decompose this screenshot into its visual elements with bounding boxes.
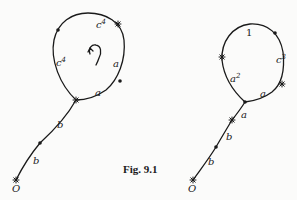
star-vertex xyxy=(219,54,225,60)
figure-9-1: c4 c4 a a b b O 1 c3 a2 a a b b O Fig. 9… xyxy=(0,0,297,200)
right-loop xyxy=(222,24,284,102)
figure-caption: Fig. 9.1 xyxy=(123,163,158,175)
label-exponent: 4 xyxy=(62,56,66,64)
label-exponent: 3 xyxy=(282,53,286,61)
vertex-dot xyxy=(214,145,218,149)
left-stem-label-upper: b xyxy=(57,120,63,130)
vertex-dot xyxy=(118,79,122,83)
right-label-left: a2 xyxy=(230,74,240,84)
star-vertex xyxy=(279,81,285,87)
vertex-dot xyxy=(273,31,277,35)
left-origin-label: O xyxy=(12,184,20,194)
right-stem-label-lower: b xyxy=(208,157,214,167)
star-vertex xyxy=(73,97,79,103)
vertex-dot xyxy=(56,28,60,32)
vertex-dot xyxy=(38,141,42,145)
curved-arrow-icon xyxy=(89,45,100,65)
label-exponent: 4 xyxy=(102,18,106,26)
left-stem-label-lower: b xyxy=(33,156,39,166)
left-label-right-upper: a xyxy=(113,59,119,69)
right-label-bottom-right: a xyxy=(260,89,266,99)
label-exponent: 2 xyxy=(236,72,240,80)
right-label-top: 1 xyxy=(246,28,252,38)
left-stem xyxy=(16,100,76,180)
right-stem-label-a: a xyxy=(241,110,247,120)
star-vertex xyxy=(115,21,121,27)
right-stem-label-upper: b xyxy=(226,132,232,142)
left-label-right-lower: a xyxy=(95,88,101,98)
vertex-dot xyxy=(243,100,247,104)
right-label-right: c3 xyxy=(276,55,286,65)
star-vertex xyxy=(229,117,235,123)
left-label-left: c4 xyxy=(56,58,66,68)
right-origin-label: O xyxy=(188,184,196,194)
right-stem xyxy=(193,102,245,180)
left-label-top: c4 xyxy=(96,20,106,30)
